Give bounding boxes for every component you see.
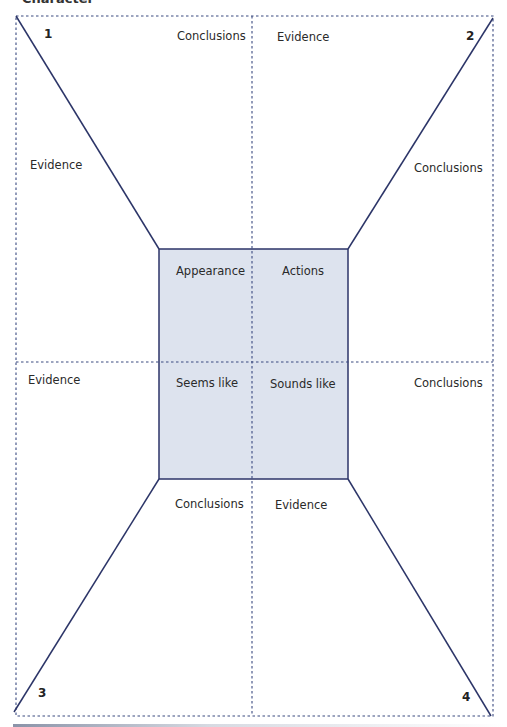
label-evidence-left-lower: Evidence [28,373,80,387]
diagram-frame [0,0,507,727]
center-label-seems-like: Seems like [176,376,238,390]
corner-number-3: 3 [38,686,46,700]
label-conclusions-right-lower: Conclusions [414,376,483,390]
label-conclusions-top: Conclusions [177,29,246,43]
corner-number-4: 4 [462,690,470,704]
diagonal-1 [16,16,159,249]
center-label-actions: Actions [282,264,324,278]
center-label-sounds-like: Sounds like [270,377,336,391]
label-evidence-left-upper: Evidence [30,158,82,172]
center-box [159,249,348,479]
diagonal-3 [14,479,159,712]
corner-number-1: 1 [44,27,52,41]
diagonal-4 [348,479,491,716]
corner-number-2: 2 [466,29,474,43]
diagonal-2 [348,18,493,249]
label-evidence-top: Evidence [277,30,329,44]
label-conclusions-bottom: Conclusions [175,497,244,511]
label-evidence-bottom: Evidence [275,498,327,512]
center-label-appearance: Appearance [176,264,245,278]
label-conclusions-right-upper: Conclusions [414,161,483,175]
